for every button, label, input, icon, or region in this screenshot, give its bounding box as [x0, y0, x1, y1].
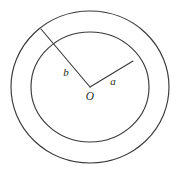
radius-label-a: a	[110, 75, 116, 87]
center-point-label: O	[86, 90, 95, 102]
diagram-canvas: a b O	[0, 0, 180, 183]
concentric-circles-figure: a b O	[0, 0, 180, 183]
radius-line-b	[41, 29, 90, 87]
radius-label-b: b	[63, 66, 69, 78]
